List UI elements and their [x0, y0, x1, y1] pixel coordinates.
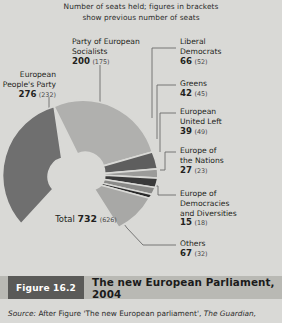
label-epp-value: 276 [18, 89, 36, 99]
figure-number-badge: Figure 16.2 [8, 276, 84, 299]
label-european-peoples-party: European People's Party 276 (232) [0, 70, 56, 100]
label-eon-value: 27 [180, 165, 192, 175]
total-seats: Total 732 (626) [26, 213, 146, 224]
label-grn-previous: (45) [194, 90, 207, 98]
label-edd-line2: Democracies [180, 199, 282, 209]
source-prefix: Source: [8, 309, 36, 318]
total-label: Total [55, 214, 75, 224]
label-party-of-european-socialists: Party of European Socialists 200 (175) [72, 37, 172, 67]
label-others: Others 67 (32) [180, 239, 280, 260]
label-lib-previous: (52) [194, 58, 207, 66]
leader-line-eul [160, 113, 176, 152]
pie-slice-european-peoples-party [3, 107, 62, 224]
label-pes-previous: (175) [92, 58, 109, 66]
label-edd-line1: Europe of [180, 189, 282, 199]
label-oth-value: 67 [180, 248, 192, 258]
label-lib-line1: Liberal [180, 37, 280, 47]
label-pes-line1: Party of European [72, 37, 172, 47]
label-epp-line1: European [0, 70, 56, 80]
label-eon-previous: (23) [194, 167, 207, 175]
label-grn-line1: Greens [180, 79, 280, 89]
label-oth-previous: (32) [194, 250, 207, 258]
label-eul-value: 39 [180, 126, 192, 136]
label-eul-line1: European [180, 107, 280, 117]
label-edd-line3: and Diversities [180, 209, 282, 219]
label-lib-line2: Democrats [180, 47, 280, 57]
label-oth-line1: Others [180, 239, 280, 249]
total-value: 732 [77, 213, 97, 224]
label-edd-value: 15 [180, 217, 192, 227]
figure-title: The new European Parliament, 2004 [92, 276, 282, 299]
label-europe-of-democracies-and-diversities: Europe of Democracies and Diversities 15… [180, 189, 282, 229]
leader-line-eon [160, 152, 176, 170]
label-eul-previous: (49) [194, 128, 207, 136]
label-greens: Greens 42 (45) [180, 79, 280, 100]
label-epp-previous: (232) [39, 91, 56, 99]
label-eul-line2: United Left [180, 117, 280, 127]
total-previous: (626) [100, 216, 117, 224]
source-text: After Figure 'The new European parliamen… [38, 309, 201, 318]
label-edd-previous: (18) [194, 219, 207, 227]
pie-slices [3, 100, 158, 227]
figure-european-parliament-pie: Number of seats held; figures in bracket… [0, 0, 282, 323]
label-europe-of-the-nations: Europe of the Nations 27 (23) [180, 146, 280, 176]
label-pes-value: 200 [72, 56, 90, 66]
label-eon-line2: the Nations [180, 156, 280, 166]
source-publication: The Guardian, [204, 309, 256, 318]
source-note: Source: After Figure 'The new European p… [8, 309, 282, 319]
label-liberal-democrats: Liberal Democrats 66 (52) [180, 37, 280, 67]
label-european-united-left: European United Left 39 (49) [180, 107, 280, 137]
label-lib-value: 66 [180, 56, 192, 66]
label-eon-line1: Europe of [180, 146, 280, 156]
label-grn-value: 42 [180, 88, 192, 98]
